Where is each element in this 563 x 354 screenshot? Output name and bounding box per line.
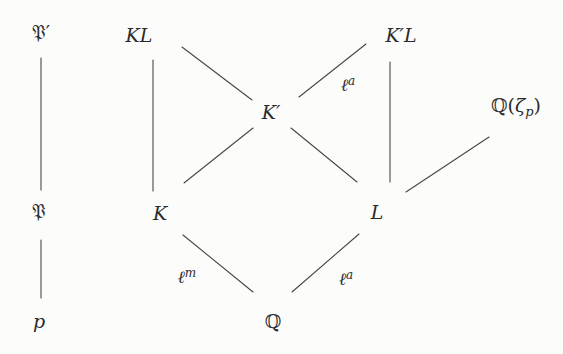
node-L: L: [371, 203, 384, 222]
node-Kprime-L: K′L: [385, 26, 416, 45]
node-Q: ℚ: [265, 312, 282, 331]
field-lattice-diagram: 𝔓′ KL K′L K′ ℚ(ζp) 𝔓 K L p ℚ ℓa ℓm ℓa: [0, 0, 563, 354]
ell-a-top-sup: a: [348, 74, 355, 88]
edges-layer: [0, 0, 563, 354]
node-KL: KL: [126, 26, 153, 45]
edge-Kprime-L: [291, 128, 357, 182]
ell-m-sup: m: [185, 266, 196, 280]
node-Q-zeta-p-sub: p: [525, 104, 533, 119]
node-Kprime: K′: [262, 103, 281, 122]
edge-Qzetap-L: [406, 137, 489, 192]
node-p: p: [33, 312, 45, 331]
node-Pfrak-prime: 𝔓′: [32, 23, 50, 42]
node-K: K: [153, 204, 167, 223]
ell-a-bottom-sup: a: [346, 268, 353, 282]
edge-KprimeL-Kprime: [299, 44, 366, 97]
node-Q-zeta-p: ℚ(ζp): [491, 96, 541, 118]
edge-KL-Kprime: [182, 47, 252, 100]
edge-Kprime-K: [184, 128, 253, 183]
edge-label-ell-a-bottom: ℓa: [339, 269, 353, 288]
node-Pfrak: 𝔓: [32, 202, 46, 221]
edge-label-ell-a-top: ℓa: [341, 75, 355, 94]
node-Q-zeta-p-post: ): [534, 94, 541, 116]
node-Q-zeta-p-pre: ℚ(: [491, 94, 515, 116]
node-Q-zeta-p-zeta: ζ: [515, 94, 525, 116]
edge-label-ell-m: ℓm: [178, 267, 196, 286]
